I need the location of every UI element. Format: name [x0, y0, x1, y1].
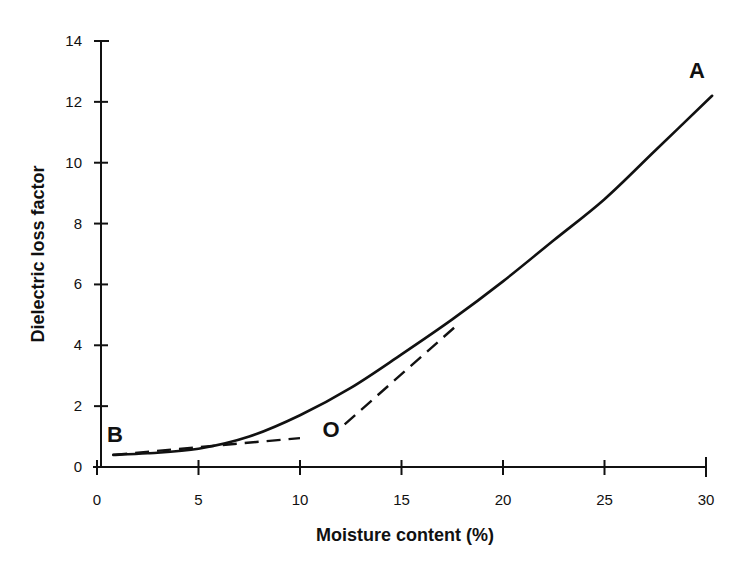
- axes: [93, 41, 707, 477]
- point-label-b: B: [107, 422, 123, 447]
- point-label-a: A: [689, 58, 705, 83]
- x-tick-labels: 051015202530: [93, 491, 715, 508]
- y-tick-label: 8: [74, 215, 82, 232]
- low-moisture-tangent-dashed: [113, 438, 300, 455]
- y-tick-label: 4: [74, 336, 82, 353]
- y-tick-label: 0: [74, 458, 82, 475]
- chart-canvas: 02468101214 051015202530 A B O Moisture …: [0, 0, 737, 577]
- y-axis-title: Dielectric loss factor: [28, 165, 48, 342]
- loss-factor-curve: [113, 96, 712, 455]
- x-tick-label: 20: [495, 491, 512, 508]
- y-tick-label: 10: [65, 154, 82, 171]
- x-axis-title: Moisture content (%): [316, 525, 494, 545]
- x-tick-label: 10: [292, 491, 309, 508]
- x-tick-label: 15: [393, 491, 410, 508]
- y-tick-label: 14: [65, 32, 82, 49]
- y-tick-label: 12: [65, 93, 82, 110]
- y-tick-label: 6: [74, 275, 82, 292]
- x-tick-label: 30: [698, 491, 715, 508]
- x-tick-label: 0: [93, 491, 101, 508]
- point-label-o: O: [322, 417, 339, 442]
- y-tick-labels: 02468101214: [65, 32, 82, 475]
- y-tick-label: 2: [74, 397, 82, 414]
- high-moisture-tangent-dashed: [345, 324, 459, 424]
- x-tick-label: 25: [596, 491, 613, 508]
- x-tick-label: 5: [194, 491, 202, 508]
